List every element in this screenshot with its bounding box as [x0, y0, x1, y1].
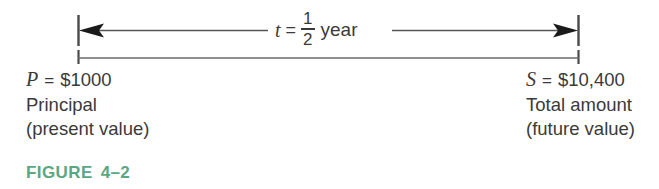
- duration-label: t = 1 2 year: [268, 8, 365, 52]
- right-amount: $10,400: [558, 68, 625, 93]
- duration-equals: =: [286, 20, 297, 41]
- right-description-line1: Total amount: [526, 93, 635, 118]
- duration-unit: year: [321, 19, 358, 41]
- figure-container: t = 1 2 year P = $1000 Principal (presen…: [0, 0, 659, 189]
- right-symbol: S: [526, 66, 536, 93]
- left-description-line1: Principal: [26, 93, 149, 118]
- right-value-line: S = $10,400: [526, 66, 635, 93]
- fraction-denominator: 2: [301, 30, 314, 48]
- left-endpoint-label: P = $1000 Principal (present value): [26, 66, 149, 142]
- duration-fraction: 1 2: [301, 10, 314, 48]
- left-value-line: P = $1000: [26, 66, 149, 93]
- right-equals: =: [542, 70, 552, 93]
- left-equals: =: [44, 70, 54, 93]
- right-endpoint-label: S = $10,400 Total amount (future value): [526, 66, 635, 142]
- left-amount: $1000: [60, 68, 111, 93]
- figure-caption: FIGURE4–2: [26, 163, 130, 183]
- left-description-line2: (present value): [26, 117, 149, 142]
- fraction-numerator: 1: [301, 10, 314, 28]
- right-description-line2: (future value): [526, 117, 635, 142]
- caption-label: FIGURE: [26, 163, 93, 182]
- caption-number: 4–2: [101, 163, 131, 182]
- left-symbol: P: [26, 66, 38, 93]
- duration-symbol: t: [275, 19, 281, 42]
